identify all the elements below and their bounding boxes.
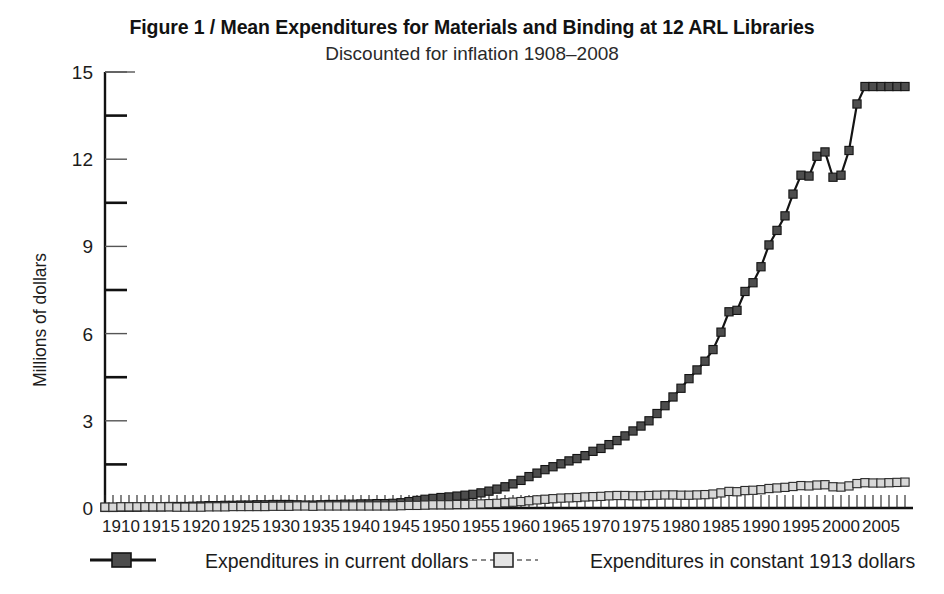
- x-tick-label: 1915: [142, 517, 180, 536]
- data-point-marker: [741, 287, 749, 295]
- data-point-marker: [637, 492, 645, 500]
- data-point-marker: [621, 432, 629, 440]
- legend-item[interactable]: Expenditures in current dollars: [90, 550, 469, 572]
- x-tick-label: 1965: [542, 517, 580, 536]
- data-point-marker: [237, 502, 245, 510]
- x-tick-label: 1910: [102, 517, 140, 536]
- legend-marker-swatch: [112, 553, 131, 567]
- data-point-marker: [373, 502, 381, 510]
- data-point-marker: [901, 82, 909, 90]
- data-point-marker: [677, 491, 685, 499]
- data-point-marker: [525, 473, 533, 481]
- data-point-marker: [501, 483, 509, 491]
- x-tick-label: 1935: [302, 517, 340, 536]
- data-point-marker: [309, 502, 317, 510]
- data-point-marker: [149, 503, 157, 511]
- x-tick-label: 1945: [382, 517, 420, 536]
- data-point-marker: [229, 502, 237, 510]
- data-point-marker: [469, 490, 477, 498]
- data-point-marker: [653, 491, 661, 499]
- x-tick-label: 1940: [342, 517, 380, 536]
- data-point-marker: [869, 479, 877, 487]
- x-tick-label: 1980: [662, 517, 700, 536]
- data-point-marker: [533, 496, 541, 504]
- data-point-marker: [821, 481, 829, 489]
- data-point-marker: [717, 489, 725, 497]
- x-tick-label: 2005: [862, 517, 900, 536]
- data-point-marker: [717, 328, 725, 336]
- data-point-marker: [261, 502, 269, 510]
- data-point-marker: [589, 447, 597, 455]
- legend-marker-swatch: [494, 553, 513, 567]
- data-point-marker: [413, 501, 421, 509]
- data-point-marker: [821, 148, 829, 156]
- data-point-marker: [661, 491, 669, 499]
- data-point-marker: [197, 503, 205, 511]
- x-tick-label: 1925: [222, 517, 260, 536]
- data-point-marker: [845, 146, 853, 154]
- data-point-marker: [317, 502, 325, 510]
- y-tick-label: 9: [82, 236, 93, 257]
- axis-layer: [105, 72, 913, 508]
- data-point-marker: [581, 452, 589, 460]
- data-point-marker: [837, 171, 845, 179]
- data-point-marker: [853, 100, 861, 108]
- data-point-marker: [653, 409, 661, 417]
- data-point-marker: [325, 502, 333, 510]
- data-point-marker: [805, 482, 813, 490]
- data-point-marker: [461, 500, 469, 508]
- data-point-marker: [757, 263, 765, 271]
- data-point-marker: [701, 357, 709, 365]
- y-tick-label: 0: [82, 498, 93, 519]
- data-point-marker: [221, 503, 229, 511]
- data-point-marker: [437, 501, 445, 509]
- data-point-marker: [845, 482, 853, 490]
- data-point-marker: [485, 500, 493, 508]
- data-point-marker: [125, 503, 133, 511]
- data-point-marker: [293, 502, 301, 510]
- data-point-marker: [205, 503, 213, 511]
- series-line: [105, 87, 905, 508]
- data-point-marker: [301, 502, 309, 510]
- data-point-marker: [269, 502, 277, 510]
- data-point-marker: [829, 483, 837, 491]
- data-point-marker: [469, 500, 477, 508]
- data-point-marker: [797, 482, 805, 490]
- data-point-marker: [901, 478, 909, 486]
- data-point-marker: [629, 492, 637, 500]
- data-point-marker: [685, 375, 693, 383]
- data-point-marker: [893, 82, 901, 90]
- data-point-marker: [893, 478, 901, 486]
- x-tick-label: 1995: [782, 517, 820, 536]
- data-point-marker: [117, 503, 125, 511]
- data-point-marker: [789, 190, 797, 198]
- data-point-marker: [661, 402, 669, 410]
- x-tick-label: 1970: [582, 517, 620, 536]
- data-point-marker: [693, 491, 701, 499]
- data-point-marker: [669, 393, 677, 401]
- data-point-marker: [389, 502, 397, 510]
- data-point-marker: [885, 479, 893, 487]
- y-tick-label: 12: [72, 149, 93, 170]
- x-tick-label: 1950: [422, 517, 460, 536]
- data-point-marker: [573, 493, 581, 501]
- x-tick-label: 1955: [462, 517, 500, 536]
- data-point-marker: [613, 436, 621, 444]
- legend-item[interactable]: Expenditures in constant 1913 dollars: [472, 550, 915, 572]
- data-point-marker: [341, 502, 349, 510]
- data-point-marker: [613, 491, 621, 499]
- data-point-marker: [709, 490, 717, 498]
- data-point-marker: [421, 501, 429, 509]
- y-tick-label: 15: [72, 62, 93, 83]
- data-point-marker: [605, 441, 613, 449]
- data-point-marker: [725, 308, 733, 316]
- data-point-marker: [581, 493, 589, 501]
- data-point-marker: [157, 503, 165, 511]
- data-point-marker: [765, 241, 773, 249]
- data-point-marker: [485, 487, 493, 495]
- data-point-marker: [733, 306, 741, 314]
- x-tick-label: 1975: [622, 517, 660, 536]
- data-point-marker: [493, 485, 501, 493]
- data-point-marker: [333, 502, 341, 510]
- data-point-marker: [669, 491, 677, 499]
